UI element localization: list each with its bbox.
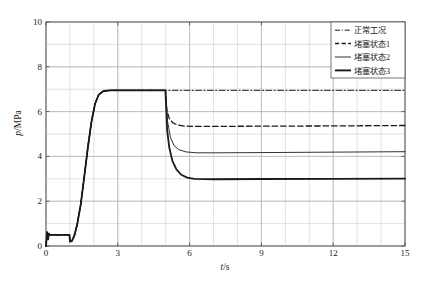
chart-figure: 正常工况堵塞状态1堵塞状态2堵塞状态3 10 8 6 4 2 0 0 3 6 9… xyxy=(0,0,424,284)
y-axis-symbol: p xyxy=(13,131,23,136)
x-tick-label: 6 xyxy=(179,248,201,258)
series-line xyxy=(46,90,405,246)
y-tick-label: 4 xyxy=(20,151,42,161)
y-tick-label: 10 xyxy=(20,17,42,27)
y-axis-title: p/MPa xyxy=(13,93,23,153)
x-tick-label: 3 xyxy=(107,248,129,258)
legend-label: 堵塞状态1 xyxy=(354,39,390,49)
y-axis-unit: /MPa xyxy=(13,110,23,131)
series-layer xyxy=(46,90,405,246)
y-tick-label: 6 xyxy=(20,107,42,117)
x-tick-label: 9 xyxy=(250,248,272,258)
chart-legend[interactable]: 正常工况堵塞状态1堵塞状态2堵塞状态3 xyxy=(331,22,405,78)
y-tick-label: 8 xyxy=(20,62,42,72)
series-line xyxy=(46,90,405,246)
x-tick-label: 0 xyxy=(35,248,57,258)
legend-label: 堵塞状态2 xyxy=(354,52,390,62)
x-axis-title: t/s xyxy=(195,262,255,272)
x-tick-label: 15 xyxy=(394,248,416,258)
series-line xyxy=(46,90,405,246)
x-tick-label: 12 xyxy=(322,248,344,258)
series-line xyxy=(46,90,405,246)
pressure-time-line-chart: 正常工况堵塞状态1堵塞状态2堵塞状态3 xyxy=(0,0,424,284)
legend-label: 堵塞状态3 xyxy=(354,66,390,76)
y-tick-label: 2 xyxy=(20,196,42,206)
legend-label: 正常工况 xyxy=(354,25,386,35)
x-axis-unit: /s xyxy=(223,262,229,272)
